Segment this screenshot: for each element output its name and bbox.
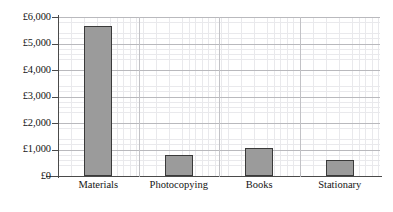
y-axis-tick — [52, 70, 58, 71]
category-separator — [219, 172, 220, 177]
y-axis-tick — [52, 176, 58, 177]
y-axis-tick-label: £6,000 — [1, 12, 51, 23]
y-axis-tick-label: £1,000 — [1, 144, 51, 155]
y-axis-tick — [52, 17, 58, 18]
category-separator — [300, 172, 301, 177]
y-axis-line — [58, 15, 59, 178]
y-axis-tick-label: £3,000 — [1, 91, 51, 102]
x-axis-tick-label: Books — [219, 179, 300, 192]
gridline-vertical — [219, 17, 220, 176]
y-axis-labels: £0£1,000£2,000£3,000£4,000£5,000£6,000 — [0, 0, 51, 212]
bar-chart: £0£1,000£2,000£3,000£4,000£5,000£6,000 M… — [0, 0, 393, 212]
x-axis-tick-label: Stationary — [300, 179, 381, 192]
x-axis-tick-label: Photocopying — [139, 179, 220, 192]
y-axis-tick — [52, 150, 58, 151]
bar — [245, 148, 273, 176]
bar — [84, 26, 112, 176]
y-axis-tick-label: £0 — [1, 171, 51, 182]
y-axis-tick-label: £2,000 — [1, 118, 51, 129]
bar — [165, 155, 193, 176]
gridline-vertical — [300, 17, 301, 176]
y-axis-tick-label: £4,000 — [1, 65, 51, 76]
bar — [326, 160, 354, 176]
y-axis-tick-label: £5,000 — [1, 38, 51, 49]
x-axis-line — [46, 176, 382, 177]
y-axis-tick — [52, 123, 58, 124]
category-separator — [139, 172, 140, 177]
gridline-vertical — [139, 17, 140, 176]
y-axis-tick — [52, 44, 58, 45]
y-axis-tick — [52, 97, 58, 98]
x-axis-tick-label: Materials — [58, 179, 139, 192]
